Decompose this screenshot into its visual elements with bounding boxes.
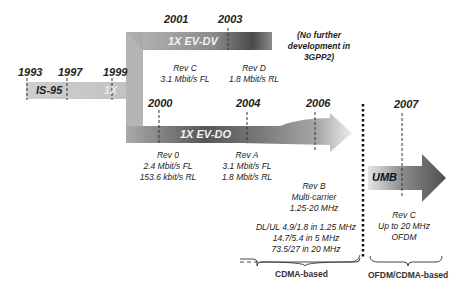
- year-2001: 2001: [164, 13, 188, 25]
- note-rev-b-rates: DL/UL 4.9/1.8 in 1.25 MHz 14.7/5.4 in 5 …: [252, 222, 360, 255]
- note-rev-a: Rev A 3.1 Mbit/s FL 1.8 Mbit/s RL: [215, 150, 279, 183]
- group-cdma-based: CDMA-based: [275, 269, 328, 279]
- year-1999: 1999: [103, 66, 127, 78]
- year-2004: 2004: [236, 97, 260, 109]
- label-umb: UMB: [372, 171, 397, 183]
- year-2006: 2006: [306, 97, 330, 109]
- label-is95: IS-95: [36, 84, 62, 96]
- year-2000: 2000: [148, 97, 172, 109]
- note-rev-0: Rev 0 2.4 Mbit/s FL 153.6 kbit/s RL: [133, 150, 203, 183]
- label-1x: 1X: [104, 84, 117, 96]
- group-ofdm-cdma-based: OFDM/CDMA-based: [368, 270, 448, 280]
- evdo-arrow: [126, 113, 352, 152]
- note-rev-d-dv: Rev D 1.8 Mbit/s RL: [222, 63, 286, 85]
- label-evdv: 1X EV-DV: [168, 35, 218, 47]
- timeline-graphics: [0, 0, 467, 294]
- year-1997: 1997: [58, 66, 82, 78]
- note-no-further: (No further development in 3GPP2): [283, 30, 355, 63]
- year-2007: 2007: [394, 98, 418, 110]
- note-rev-c-umb: Rev C Up to 20 MHz OFDM: [376, 210, 432, 243]
- year-2003: 2003: [218, 13, 242, 25]
- note-rev-c-dv: Rev C 3.1 Mbit/s FL: [150, 63, 220, 85]
- year-1993: 1993: [18, 66, 42, 78]
- label-evdo: 1X EV-DO: [180, 128, 231, 140]
- note-rev-b: Rev B Multi-carrier 1.25-20 MHz: [279, 181, 349, 214]
